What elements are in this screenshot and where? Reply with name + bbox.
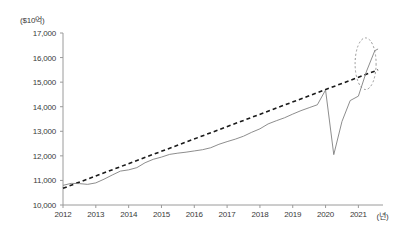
chart-container: ($10억) 10,00011,00012,00013,00014,00015,… <box>0 0 395 239</box>
chart-plot-svg <box>0 0 395 239</box>
actual-line-series <box>63 49 378 185</box>
axis-group <box>60 33 383 208</box>
recovery-highlight-ellipse <box>355 38 376 90</box>
